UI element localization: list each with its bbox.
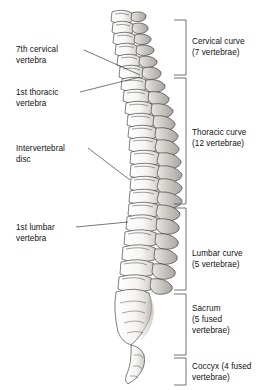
cervical-vertebrae — [111, 10, 161, 80]
label-lumbar-curve: Lumbar curve (5 vertebrae) — [192, 248, 243, 270]
bracket-coccyx — [174, 358, 186, 385]
label-cervical-curve: Cervical curve (7 vertebrae) — [192, 36, 245, 58]
vertebral-column-illustration — [111, 10, 182, 384]
label-first-thoracic-vertebra: 1st thoracic vertebra — [16, 87, 58, 109]
coccyx-bone — [125, 345, 144, 384]
lumbar-vertebrae — [118, 215, 179, 295]
label-intervertebral-disc: Intervertebral disc — [16, 143, 65, 165]
leader-line-first-lumbar-vertebra — [76, 222, 128, 227]
label-first-lumbar-vertebra: 1st lumbar vertebra — [16, 222, 55, 244]
label-sacrum: Sacrum (5 fused vertebrae) — [192, 303, 230, 337]
sacrum-bone — [115, 289, 154, 345]
label-coccyx: Coccyx (4 fused vertebrae) — [192, 361, 251, 383]
thoracic-vertebrae — [121, 77, 182, 221]
label-seventh-cervical-vertebra: 7th cervical vertebra — [16, 44, 58, 66]
bracket-lumbar-curve — [174, 208, 186, 290]
bracket-sacrum — [174, 294, 186, 355]
label-thoracic-curve: Thoracic curve (12 vertebrae) — [192, 127, 246, 149]
bracket-cervical-curve — [174, 20, 186, 75]
leader-line-intervertebral-disc — [88, 148, 130, 180]
